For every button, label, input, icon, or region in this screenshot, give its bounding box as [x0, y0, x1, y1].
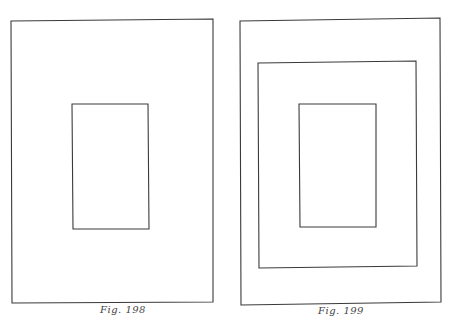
figure-199-middle-rect [258, 61, 417, 268]
figure-198-outer-rect [11, 19, 213, 303]
figure-199-caption: Fig. 199 [318, 305, 364, 316]
figure-198 [11, 19, 213, 303]
figures-drawing [0, 0, 453, 334]
figure-198-inner-rect [72, 104, 149, 229]
figure-199 [240, 18, 441, 305]
figure-199-inner-rect [299, 104, 376, 227]
figure-198-caption: Fig. 198 [100, 304, 146, 315]
